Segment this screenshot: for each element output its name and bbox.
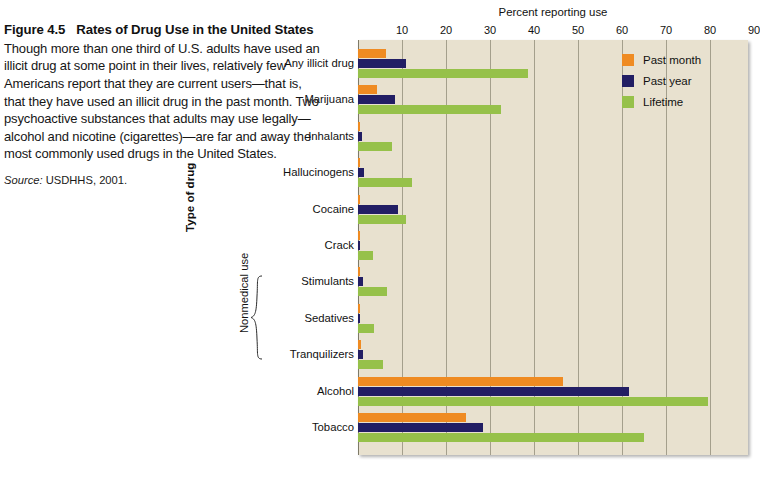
y-tick-label: Marijuana (204, 93, 354, 105)
nonmedical-use-brace (250, 275, 263, 360)
y-tick-label: Cocaine (204, 203, 354, 215)
y-tick-label: Tranquilizers (204, 348, 354, 360)
y-tick-label: Crack (204, 239, 354, 251)
y-tick-label: Tobacco (204, 421, 354, 433)
y-tick-label: Any illicit drug (204, 57, 354, 69)
chart-axis-title-y: Type of drug (183, 163, 196, 232)
y-tick-label: Sedatives (204, 312, 354, 324)
y-tick-label: Inhalants (204, 130, 354, 142)
y-tick-label: Hallucinogens (204, 166, 354, 178)
y-tick-label: Alcohol (204, 385, 354, 397)
y-tick-label: Stimulants (204, 275, 354, 287)
nonmedical-use-label: Nonmedical use (238, 253, 250, 333)
